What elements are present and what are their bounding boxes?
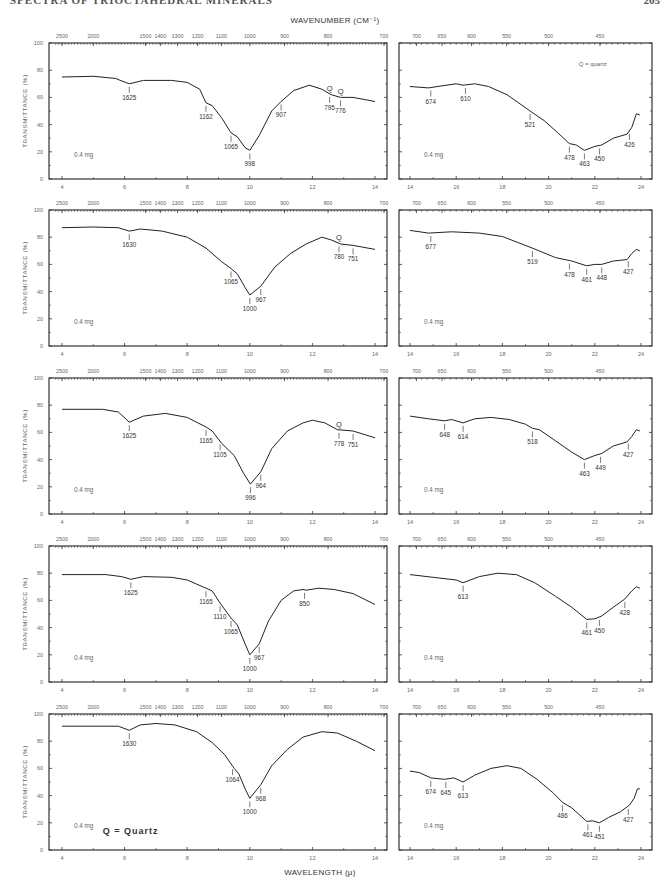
svg-text:14: 14 xyxy=(372,687,378,693)
svg-text:1500: 1500 xyxy=(140,200,152,206)
band-label: 448 xyxy=(596,274,607,281)
svg-text:2500: 2500 xyxy=(56,33,68,39)
svg-text:800: 800 xyxy=(324,536,333,542)
quartz-legend: Q = quartz xyxy=(579,61,607,67)
svg-text:80: 80 xyxy=(37,738,43,744)
svg-text:100: 100 xyxy=(34,40,43,46)
svg-text:4: 4 xyxy=(60,351,63,357)
svg-text:22: 22 xyxy=(592,855,598,861)
band-label: 1065 xyxy=(224,628,239,635)
svg-text:14: 14 xyxy=(372,351,378,357)
sample-mass: 0.4 mg xyxy=(424,654,444,662)
right-spectrum-curve xyxy=(410,84,640,151)
svg-text:1300: 1300 xyxy=(172,536,184,542)
svg-text:100: 100 xyxy=(34,207,43,213)
svg-text:2000: 2000 xyxy=(87,200,99,206)
band-label: 967 xyxy=(254,654,265,661)
wavelength-axis-title: WAVELENGTH (µ) xyxy=(220,868,420,877)
band-label: 907 xyxy=(276,111,287,118)
right-spectrum-curve xyxy=(410,573,640,619)
band-label: 998 xyxy=(245,160,256,167)
svg-text:60: 60 xyxy=(37,765,43,771)
svg-text:6: 6 xyxy=(123,184,126,190)
svg-text:800: 800 xyxy=(324,33,333,39)
svg-text:450: 450 xyxy=(596,33,605,39)
band-label: 1625 xyxy=(122,432,137,439)
band-label: 463 xyxy=(579,470,590,477)
band-label: 461 xyxy=(583,831,594,838)
svg-text:600: 600 xyxy=(467,368,476,374)
svg-text:40: 40 xyxy=(37,289,43,295)
right-panel-4: 1416182022247006506005505004506134614504… xyxy=(399,536,652,693)
svg-text:0: 0 xyxy=(40,511,43,517)
band-label: 519 xyxy=(527,258,538,265)
right-panel-1: 1416182022247006506005505004506746105214… xyxy=(399,33,652,190)
svg-text:1500: 1500 xyxy=(140,33,152,39)
svg-text:60: 60 xyxy=(37,261,43,267)
svg-text:900: 900 xyxy=(280,704,289,710)
svg-text:1300: 1300 xyxy=(172,33,184,39)
svg-text:22: 22 xyxy=(592,519,598,525)
svg-text:2000: 2000 xyxy=(87,368,99,374)
svg-text:0: 0 xyxy=(40,176,43,182)
svg-text:2500: 2500 xyxy=(56,368,68,374)
band-label: 964 xyxy=(255,482,266,489)
right-spectrum-curve xyxy=(410,230,640,265)
svg-text:1400: 1400 xyxy=(154,536,166,542)
band-label: 751 xyxy=(348,255,359,262)
svg-text:6: 6 xyxy=(123,519,126,525)
svg-text:1400: 1400 xyxy=(154,704,166,710)
svg-text:650: 650 xyxy=(438,704,447,710)
svg-text:18: 18 xyxy=(499,687,505,693)
svg-text:650: 650 xyxy=(438,200,447,206)
svg-text:500: 500 xyxy=(544,200,553,206)
svg-text:700: 700 xyxy=(412,200,421,206)
band-label: 1065 xyxy=(224,143,239,150)
svg-text:1000: 1000 xyxy=(244,200,256,206)
band-label: 613 xyxy=(458,593,469,600)
svg-text:60: 60 xyxy=(37,94,43,100)
quartz-marker: Q xyxy=(327,84,333,93)
svg-text:1100: 1100 xyxy=(216,536,227,542)
band-label: 610 xyxy=(460,95,471,102)
left-spectrum-curve xyxy=(62,724,375,799)
svg-text:20: 20 xyxy=(546,855,552,861)
svg-text:0: 0 xyxy=(40,343,43,349)
svg-text:900: 900 xyxy=(280,536,289,542)
band-label: 450 xyxy=(594,627,605,634)
spectrum-row-5: 0204060801004681012142500200015001400130… xyxy=(21,704,652,861)
band-label: 850 xyxy=(299,600,310,607)
right-panel-5: 1416182022247006506005505004506746456134… xyxy=(399,704,652,861)
band-label: 427 xyxy=(623,268,634,275)
svg-text:20: 20 xyxy=(546,184,552,190)
svg-text:500: 500 xyxy=(544,536,553,542)
svg-text:800: 800 xyxy=(324,704,333,710)
sample-mass: 0.4 mg xyxy=(424,486,444,494)
svg-text:800: 800 xyxy=(324,200,333,206)
svg-text:18: 18 xyxy=(499,184,505,190)
svg-text:1000: 1000 xyxy=(244,536,256,542)
y-axis-title: TRANSMITTANCE (%) xyxy=(21,409,28,483)
svg-text:1000: 1000 xyxy=(244,33,256,39)
svg-text:650: 650 xyxy=(438,536,447,542)
svg-text:700: 700 xyxy=(380,33,389,39)
band-label: 778 xyxy=(334,440,345,447)
svg-text:18: 18 xyxy=(499,519,505,525)
svg-text:550: 550 xyxy=(502,368,511,374)
svg-text:650: 650 xyxy=(438,33,447,39)
band-label: 613 xyxy=(458,792,469,799)
svg-text:600: 600 xyxy=(467,704,476,710)
svg-text:1500: 1500 xyxy=(140,368,152,374)
band-label: 449 xyxy=(595,464,606,471)
spectrum-row-2: 0204060801004681012142500200015001400130… xyxy=(21,200,652,357)
svg-text:6: 6 xyxy=(123,855,126,861)
svg-text:80: 80 xyxy=(37,67,43,73)
svg-text:8: 8 xyxy=(186,351,189,357)
svg-text:700: 700 xyxy=(380,536,389,542)
svg-text:550: 550 xyxy=(502,33,511,39)
sample-mass: 0.4 mg xyxy=(424,318,444,326)
svg-text:1200: 1200 xyxy=(192,368,204,374)
band-label: 780 xyxy=(334,253,345,260)
band-label: 1000 xyxy=(243,808,258,815)
svg-text:500: 500 xyxy=(544,33,553,39)
